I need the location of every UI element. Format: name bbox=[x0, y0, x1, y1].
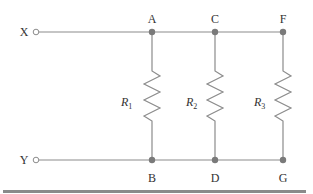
terminal-x bbox=[33, 29, 39, 35]
resistor-r3 bbox=[275, 32, 291, 160]
resistor-r2-label: R2 bbox=[186, 96, 197, 111]
node-d bbox=[212, 157, 218, 163]
node-g-label: G bbox=[279, 172, 288, 184]
circuit-diagram bbox=[0, 0, 313, 194]
node-c-label: C bbox=[211, 13, 219, 25]
node-b-label: B bbox=[148, 172, 156, 184]
node-f-label: F bbox=[280, 13, 287, 25]
resistor-r2-subscript: 2 bbox=[193, 102, 197, 111]
node-b bbox=[149, 157, 155, 163]
resistor-r1-subscript: 1 bbox=[128, 102, 132, 111]
node-c bbox=[212, 29, 218, 35]
node-f bbox=[280, 29, 286, 35]
node-a bbox=[149, 29, 155, 35]
node-g bbox=[280, 157, 286, 163]
node-a-label: A bbox=[148, 13, 157, 25]
resistor-r3-subscript: 3 bbox=[261, 102, 265, 111]
node-d-label: D bbox=[211, 172, 220, 184]
terminal-y bbox=[33, 157, 39, 163]
terminal-y-label: Y bbox=[20, 154, 29, 166]
resistor-r2 bbox=[207, 32, 223, 160]
resistor-r3-label: R3 bbox=[254, 96, 265, 111]
resistor-r1-label: R1 bbox=[121, 96, 132, 111]
resistor-r1 bbox=[144, 32, 160, 160]
bottom-divider bbox=[3, 190, 306, 193]
terminal-x-label: X bbox=[20, 26, 29, 38]
